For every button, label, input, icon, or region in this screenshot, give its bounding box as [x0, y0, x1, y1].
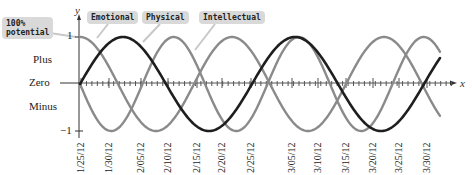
potential-callout: 100% potential [2, 17, 53, 39]
potential-line2: potential [6, 28, 49, 37]
legend-intellectual: Intellectual [199, 11, 265, 24]
callout-pointers [50, 24, 215, 50]
y-tick-one: 1 [67, 29, 73, 41]
y-region-plus: Plus [33, 53, 52, 65]
legend-emotional: Emotional [87, 11, 138, 24]
x-tick-label: 2/05/12 [135, 142, 146, 173]
y-tick-zero: Zero [29, 76, 50, 88]
x-tick-label: 3/25/12 [393, 142, 404, 173]
x-tick-label: 3/20/12 [367, 142, 378, 173]
x-tick-label: 1/25/12 [75, 142, 86, 173]
potential-line1: 100% [6, 19, 49, 28]
legend-physical: Physical [142, 11, 189, 24]
x-tick-label: 2/15/12 [191, 142, 202, 173]
x-axis-label: x [459, 77, 465, 89]
x-tick-label: 2/10/12 [162, 142, 173, 173]
y-tick-minus-one: −1 [60, 124, 72, 136]
x-tick-label: 2/25/12 [245, 142, 256, 173]
x-tick-label: 3/10/12 [312, 142, 323, 173]
x-tick-label: 3/05/12 [286, 142, 297, 173]
x-tick-label: 2/20/12 [216, 142, 227, 173]
x-tick-label: 3/15/12 [340, 142, 351, 173]
x-tick-label: 1/30/12 [103, 142, 114, 173]
y-axis-label: y [74, 4, 80, 16]
y-region-minus: Minus [29, 100, 57, 112]
x-tick-label: 3/30/12 [421, 142, 432, 173]
